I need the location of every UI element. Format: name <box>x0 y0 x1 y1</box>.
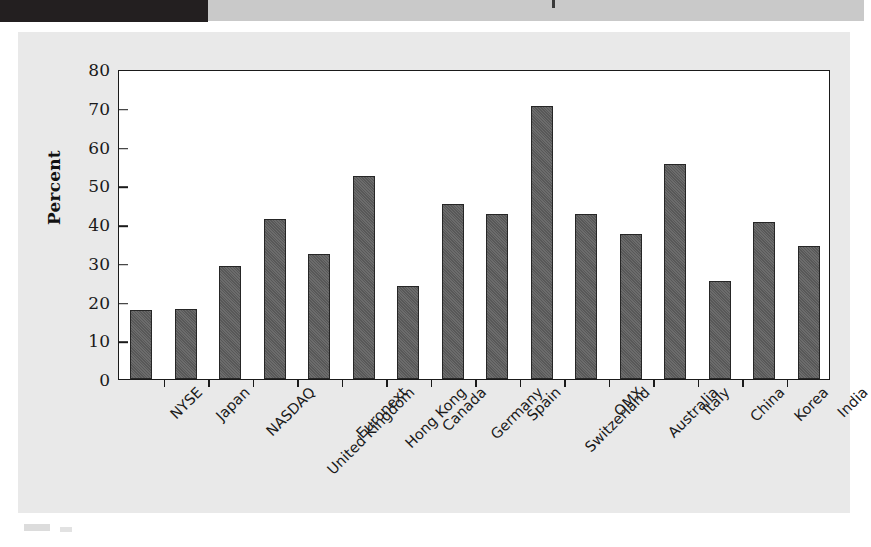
y-tick-label: 70 <box>76 100 110 117</box>
bar <box>531 106 553 379</box>
y-tick-mark <box>119 186 128 188</box>
scan-strip-tick-mark <box>552 0 555 8</box>
page-artifact-a <box>24 524 50 531</box>
page-artifact-b <box>60 527 72 532</box>
plot-area <box>118 70 830 380</box>
y-tick-label: 30 <box>76 255 110 272</box>
y-tick-mark <box>119 225 128 227</box>
y-tick-mark <box>119 303 128 305</box>
x-tick-label: NASDAQ <box>263 384 318 439</box>
plot-inner <box>119 71 829 379</box>
bar <box>486 214 508 379</box>
y-tick-label: 80 <box>76 62 110 79</box>
x-tick-label: NYSE <box>167 384 205 422</box>
y-tick-label: 0 <box>76 372 110 389</box>
y-tick-label: 10 <box>76 333 110 350</box>
y-tick-mark <box>119 109 128 111</box>
bar <box>219 266 241 379</box>
y-tick-label: 40 <box>76 217 110 234</box>
x-tick-label: Euronext <box>353 384 410 441</box>
y-tick-mark <box>119 264 128 266</box>
bar <box>264 219 286 379</box>
bar <box>753 222 775 379</box>
y-tick-label: 20 <box>76 294 110 311</box>
x-tick-label: Korea <box>791 384 831 424</box>
x-tick-label: India <box>834 384 870 420</box>
y-tick-mark <box>119 341 128 343</box>
bar <box>620 234 642 379</box>
x-axis-category-labels: NYSEJapanNASDAQUnited KingdomEuronextHon… <box>118 384 830 504</box>
scan-strip-light-block <box>208 0 864 21</box>
bar <box>798 246 820 379</box>
bar <box>397 286 419 379</box>
bar <box>709 281 731 379</box>
y-tick-label: 60 <box>76 139 110 156</box>
x-tick-label: China <box>747 384 788 425</box>
scan-strip-dark-block <box>0 0 208 22</box>
bar <box>175 309 197 379</box>
figure-panel: Percent 01020304050607080 NYSEJapanNASDA… <box>18 32 850 513</box>
bar <box>664 164 686 379</box>
y-axis-title: Percent <box>44 150 64 225</box>
bar <box>442 204 464 379</box>
y-tick-label: 50 <box>76 178 110 195</box>
scan-top-strip <box>0 0 864 22</box>
y-tick-mark <box>119 148 128 150</box>
bar <box>353 176 375 379</box>
bar <box>130 310 152 379</box>
bar <box>308 254 330 379</box>
x-tick-label: Japan <box>213 384 253 424</box>
bar <box>575 214 597 379</box>
